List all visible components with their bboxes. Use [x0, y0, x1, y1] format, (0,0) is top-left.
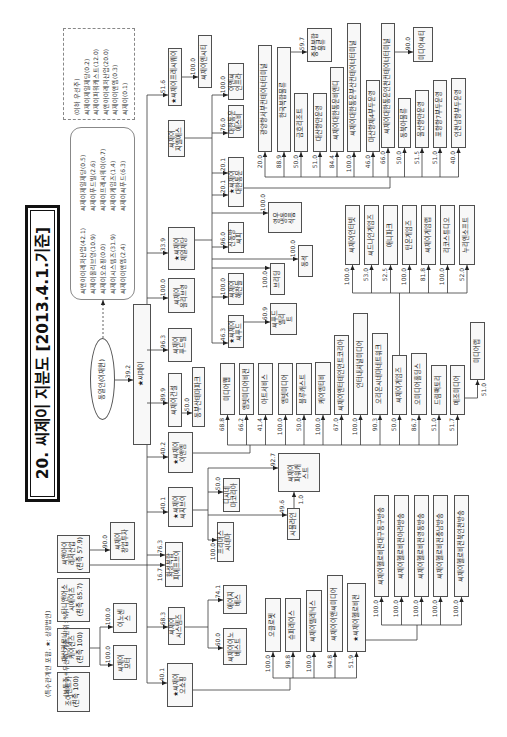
node-label: 화성복합 피에프브이: [167, 550, 182, 580]
node-label: 프리머스 시네마: [218, 530, 233, 554]
stake-label: 50.0: [214, 477, 221, 490]
node-hwaseong: 화성복합 피에프브이: [165, 542, 183, 587]
node-kx-sb: 대한통운 에스비: [228, 105, 244, 138]
node-label: 영우 냉동 식품: [274, 212, 296, 224]
stake-label: 100.0: [219, 76, 226, 93]
node-label: 씨드나인게임즈: [368, 214, 375, 256]
node-oshopping-sub: 슈퍼레이스: [285, 598, 301, 652]
node-kx-sub: 울산항만운영: [415, 90, 429, 148]
node-label: 중부복합 물류: [312, 33, 327, 57]
node-label: 울산항만운영: [418, 101, 425, 137]
node-root: ★씨제이: [133, 304, 151, 445]
node-hellovision: ★씨제이헬로비전: [347, 583, 366, 652]
stake-label: 50.0: [292, 155, 299, 168]
node-agbes: 에이지 베스: [223, 585, 247, 614]
node-label: 턴온게임즈: [406, 220, 413, 250]
node-label: ★씨제이: [138, 362, 145, 386]
stake-label: 98.8: [284, 655, 291, 668]
node-label: 씨제이인터넷: [349, 217, 356, 253]
node-kx-sub: 마산항제4부두운영: [366, 80, 380, 152]
node-cheiljedang: ★씨제이 제일제당: [168, 227, 195, 270]
node-primus: 프리머스 시네마: [217, 522, 234, 562]
title-text: 20. 씨제이 지분도 [2013.4.1.기준]: [34, 227, 52, 479]
ownership-diagram: 20. 씨제이 지분도 [2013.4.1.기준] (특수관계인 포함, ★: …: [0, 0, 507, 737]
stake-label: 20.0: [256, 155, 263, 168]
node-label: 씨앤아이 레저산업 (친족 57.9): [62, 537, 84, 570]
node-label: 시뮬라인: [290, 512, 297, 536]
stake-label: 100.0: [159, 279, 166, 296]
node-simuline: 시뮬라인: [287, 508, 300, 540]
stake-label: 100.0: [305, 655, 312, 672]
node-label: 대산항만운영: [316, 105, 323, 141]
node-enm-sub: 아트서비스: [258, 363, 273, 415]
stake-label: 66.0: [379, 151, 386, 164]
node-enm-sub: 인터내셔널미디어: [353, 313, 368, 415]
node-label: 씨제이 지엘에스: [169, 127, 184, 151]
node-label: 인터내셔널미디어: [357, 340, 364, 388]
node-label: 씨제이게임랩: [425, 217, 432, 253]
node-label: ★씨제이 오쇼핑: [173, 673, 188, 697]
node-enm-sub: 메조미디어: [450, 365, 465, 415]
node-oshopping: ★씨제이 오쇼핑: [167, 663, 193, 707]
node-enc-infra: 이엔씨 인프라: [228, 63, 244, 100]
stake-label: 74.1: [214, 585, 221, 598]
node-label: 누리엔소프트: [463, 217, 470, 253]
stake-label: 76.3: [156, 540, 163, 553]
node-label: 씨제이헬로비전아라방송: [398, 513, 405, 579]
node-game-sub: 씨제이인터넷: [345, 205, 360, 265]
node-label: 신동방 씨피: [229, 229, 244, 247]
node-label: 씨제이엔터테인먼트코리아: [338, 339, 345, 411]
stake-label: 90.3: [371, 418, 378, 431]
stake-label: 100.0: [343, 268, 350, 285]
node-dongbusan: 동부산테마파크: [192, 367, 205, 427]
stake-label: 100.0: [104, 646, 111, 663]
node-label: 광양항서부컨테이너터미널: [261, 63, 268, 135]
stake-label: 40.0: [449, 151, 456, 164]
stake-label: 33.9: [159, 238, 166, 251]
node-breeding: 브리딩: [270, 263, 285, 295]
node-oshopping-sub: 오클로젯: [265, 598, 281, 652]
stake-label: 100.0: [189, 58, 196, 75]
stake-label: 100.0: [104, 608, 111, 625]
node-cgv: ★씨제이 씨지브이: [168, 487, 193, 527]
stake-label: 20.1: [219, 158, 226, 171]
stake-label: 51.6: [159, 80, 166, 93]
node-label: 대한통운 에스비: [229, 110, 244, 134]
legend: (특수관계인 포함, ★: 상장법인) (보통주+우선주 기준, 단위: %): [34, 575, 79, 697]
node-motor: 씨제이 모터: [113, 645, 137, 680]
node-label: 씨제이 시스템즈: [169, 614, 184, 638]
stake-label: 89.9: [159, 388, 166, 401]
node-game-sub: 씨드나인게임즈: [364, 205, 379, 265]
node-label: 오미디어홀딩스: [415, 363, 422, 405]
node-label: 씨제이헬로비전영동방송: [418, 513, 425, 579]
node-label: 씨제이건설: [171, 385, 178, 415]
node-label: ★씨제이 씨푸드: [229, 320, 244, 344]
node-label: 씨제이대한통운비엔디: [333, 80, 340, 140]
node-label: 엠넷미디어비전: [243, 368, 250, 410]
stake-label: 66.2: [237, 418, 244, 431]
stake-label: 100.0: [438, 268, 445, 285]
stake-label: 100.0: [219, 278, 226, 295]
node-label: 드림팩토리: [435, 375, 442, 405]
node-label: 미디어씨티: [419, 30, 426, 60]
node-hellovision-sub: 씨제이헬로비전영동방송: [414, 495, 429, 597]
node-kx-sub: 한국복합물류: [277, 47, 291, 152]
node-label: 씨푸드 엘리 트: [272, 310, 294, 328]
stake-label: 52.0: [458, 268, 465, 281]
node-label: 미디어웹: [224, 377, 231, 401]
node-haechandle: 씨제이 해찬들: [228, 273, 244, 305]
stake-label: 51.0: [480, 383, 487, 396]
node-innovest: 씨제이이노 베스트: [223, 628, 247, 665]
node-label: 씨제이 해찬들: [229, 280, 244, 298]
node-kx-t2-sub: 중부복합 물류: [307, 28, 332, 62]
node-gls: 씨제이 지엘에스: [168, 120, 185, 157]
node-enm-sub: 케이엠티비: [315, 362, 331, 415]
controller-holdings-upper: 씨제이제일제당(0.5) 씨제이푸드빌(2.6) 씨제이프레시웨이(0.7) 씨…: [78, 133, 128, 211]
node-enm-sub: 엠넷미디어: [278, 363, 293, 415]
node-label: 씨제이대한통운인천컨테이너터미널: [384, 38, 391, 134]
node-label: 애니파크: [387, 223, 394, 247]
node-label: 동석: [302, 255, 309, 267]
stake-label: 100.0: [412, 600, 419, 617]
stake-label: 49.6: [278, 500, 285, 513]
node-youngwoo: 영우 냉동 식품: [268, 202, 302, 233]
